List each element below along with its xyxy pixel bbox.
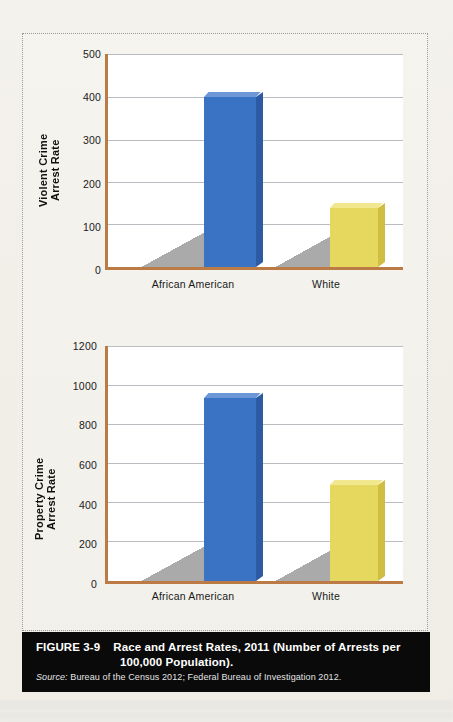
chart-violent-y-axis-label: Violent CrimeArrest Rate: [37, 110, 62, 230]
x-axis-label-white: White: [281, 590, 371, 602]
page-bleed-text: [0, 712, 453, 722]
bar-face: [204, 97, 256, 267]
y-tick-label: 400: [79, 499, 97, 511]
figure-caption-line-1: FIGURE 3-9Race and Arrest Rates, 2011 (N…: [36, 640, 418, 655]
x-axis-label-african-american: African American: [123, 278, 263, 290]
bar-white-violent[interactable]: [330, 208, 378, 267]
chart-property-crime: Property CrimeArrest Rate 0 200 400 600 …: [23, 334, 429, 626]
gridline: [108, 346, 403, 347]
y-tick-label: 0: [95, 264, 101, 276]
figure-source: Source: Bureau of the Census 2012; Feder…: [36, 672, 418, 682]
gridline: [108, 54, 403, 55]
y-tick-label: 500: [83, 48, 101, 60]
bar-side-face: [378, 480, 385, 581]
figure-title-line-2: 100,000 Population).: [36, 655, 418, 670]
bar-shadow: [142, 233, 204, 267]
bar-face: [330, 208, 378, 267]
y-tick-label: 200: [83, 178, 101, 190]
figure-title: Race and Arrest Rates, 2011 (Number of A…: [113, 641, 400, 653]
chart-property-plot-area: [105, 346, 403, 584]
bar-shadow: [276, 551, 330, 581]
y-tick-label: 1000: [73, 380, 97, 392]
y-tick-label: 200: [79, 538, 97, 550]
figure-source-text: Bureau of the Census 2012; Federal Burea…: [68, 672, 342, 682]
figure-caption: FIGURE 3-9Race and Arrest Rates, 2011 (N…: [22, 632, 430, 692]
bar-white-property[interactable]: [330, 485, 378, 581]
x-axis-label-african-american: African American: [123, 590, 263, 602]
y-tick-label: 1200: [73, 340, 97, 352]
bar-african-american-property[interactable]: [204, 398, 256, 581]
bar-african-american-violent[interactable]: [204, 97, 256, 267]
figure-container: Violent CrimeArrest Rate 0 100 200 300 4…: [22, 33, 428, 631]
bar-shadow: [142, 547, 204, 581]
bar-side-face: [256, 393, 263, 581]
figure-source-prefix: Source:: [36, 672, 68, 682]
y-tick-label: 0: [91, 578, 97, 590]
bar-top-face: [330, 480, 383, 485]
bar-side-face: [378, 203, 385, 267]
bar-top-face: [330, 203, 383, 208]
bar-face: [204, 398, 256, 581]
bar-shadow: [276, 237, 330, 267]
y-tick-label: 400: [83, 91, 101, 103]
y-tick-label: 100: [83, 221, 101, 233]
chart-property-y-ticks: 0 200 400 600 800 1000 1200: [59, 346, 97, 584]
gridline: [108, 385, 403, 386]
figure-number: FIGURE 3-9: [36, 640, 100, 655]
bar-face: [330, 485, 378, 581]
bar-top-face: [204, 393, 261, 398]
chart-violent-plot-area: [105, 54, 403, 270]
x-axis-label-white: White: [281, 278, 371, 290]
y-tick-label: 800: [79, 419, 97, 431]
chart-violent-crime: Violent CrimeArrest Rate 0 100 200 300 4…: [23, 40, 429, 320]
y-tick-label: 600: [79, 459, 97, 471]
bar-side-face: [256, 92, 263, 267]
chart-property-y-axis-label: Property CrimeArrest Rate: [33, 434, 58, 564]
page-bleed-text: [0, 700, 453, 710]
chart-violent-y-ticks: 0 100 200 300 400 500: [63, 54, 101, 270]
y-tick-label: 300: [83, 134, 101, 146]
bar-top-face: [204, 92, 261, 97]
